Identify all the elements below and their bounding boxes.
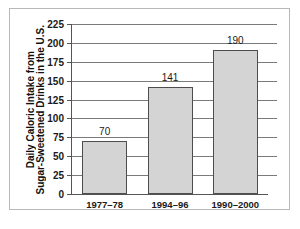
chart-figure: Daily Caloric Intake from Sugar-Sweetene… (0, 0, 300, 229)
y-tick-label: 200 (47, 37, 64, 48)
bar (82, 141, 127, 194)
y-tick-label: 150 (47, 75, 64, 86)
y-axis-title: Daily Caloric Intake from Sugar-Sweetene… (18, 24, 54, 195)
y-tick-label: 25 (53, 170, 64, 181)
bar-value-label: 70 (99, 126, 110, 137)
y-tick-label: 125 (47, 94, 64, 105)
x-tick-label: 1994–96 (152, 199, 189, 210)
bar (148, 87, 193, 194)
y-tick-label: 0 (58, 189, 64, 200)
y-tick-label: 100 (47, 113, 64, 124)
y-tick-mark-right (268, 24, 277, 25)
bar-value-label: 141 (162, 72, 179, 83)
bar-series: 701977–781411994–961901990–2000 (72, 24, 268, 194)
y-axis-title-line-2: Sugar-Sweetened Drinks in the U.S. (36, 25, 46, 194)
y-tick-mark-right (268, 156, 277, 157)
x-tick-label: 1977–78 (86, 199, 123, 210)
y-tick-label: 175 (47, 56, 64, 67)
y-tick-mark-right (268, 62, 277, 63)
y-tick-label: 50 (53, 151, 64, 162)
bar (213, 50, 258, 194)
bar-value-label: 190 (227, 35, 244, 46)
y-tick-mark-right (268, 43, 277, 44)
y-tick-mark-right (268, 81, 277, 82)
y-tick-label: 75 (53, 132, 64, 143)
y-tick-mark-right (268, 118, 277, 119)
plot-area: 2252001751501251007550250 701977–7814119… (71, 24, 268, 195)
y-tick-mark-right (268, 100, 277, 101)
y-tick-label: 225 (47, 19, 64, 30)
y-tick-mark-right (268, 175, 277, 176)
y-tick-mark-right (268, 137, 277, 138)
y-tick-mark (67, 194, 72, 195)
x-tick-label: 1990–2000 (212, 199, 260, 210)
